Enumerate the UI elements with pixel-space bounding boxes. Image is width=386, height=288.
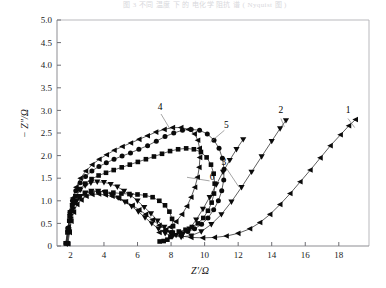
svg-text:2: 2	[68, 250, 73, 260]
svg-text:4: 4	[102, 250, 107, 260]
svg-text:10: 10	[200, 250, 210, 260]
curve-label-3: 3	[222, 157, 227, 167]
svg-text:3.5: 3.5	[41, 83, 53, 93]
svg-text:3.0: 3.0	[41, 106, 53, 116]
figure-root: 图 3 不同 温度 下 的 电化学 阻抗 谱 ( Nyquist 图 ) 00.…	[0, 0, 386, 288]
curve-label-2: 2	[279, 105, 284, 115]
svg-text:0.5: 0.5	[41, 219, 53, 229]
svg-text:18: 18	[334, 250, 344, 260]
svg-text:1.5: 1.5	[41, 173, 53, 183]
nyquist-plot: 00.51.01.52.02.53.03.54.04.55.0246810121…	[0, 0, 386, 288]
curve-label-5: 5	[224, 120, 229, 130]
y-axis-title: − Z″/Ω	[19, 94, 30, 154]
curve-label-6: 6	[210, 172, 215, 182]
svg-text:2.0: 2.0	[41, 151, 53, 161]
curve-label-1: 1	[346, 105, 351, 115]
chart-svg: 00.51.01.52.02.53.03.54.04.55.0246810121…	[0, 0, 386, 288]
svg-text:16: 16	[301, 250, 311, 260]
svg-text:12: 12	[234, 250, 243, 260]
x-axis-title: Z′/Ω	[150, 265, 250, 276]
svg-text:14: 14	[267, 250, 277, 260]
svg-text:5.0: 5.0	[41, 15, 53, 25]
svg-text:4.0: 4.0	[41, 60, 53, 70]
svg-text:2.5: 2.5	[41, 128, 53, 138]
svg-text:8: 8	[169, 250, 174, 260]
curve-label-4: 4	[158, 102, 163, 112]
svg-text:6: 6	[135, 250, 140, 260]
svg-text:4.5: 4.5	[41, 38, 53, 48]
svg-text:1.0: 1.0	[41, 196, 53, 206]
svg-text:0: 0	[48, 241, 53, 251]
